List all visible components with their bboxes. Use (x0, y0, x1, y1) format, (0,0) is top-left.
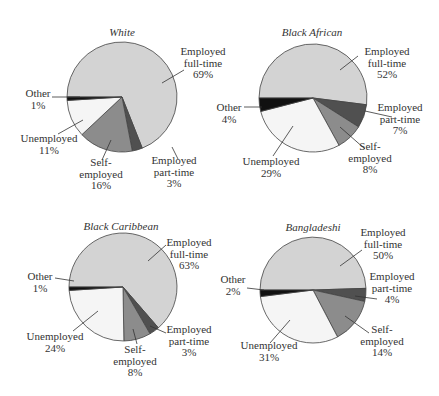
pie-panel-bangladeshi: Bangladeshi Employed full-time 50% Emplo… (220, 198, 439, 396)
label-unemployed: Unemployed 29% (243, 156, 300, 179)
pie-chart (0, 198, 219, 396)
label-employed-part-time: Employed part-time 3% (166, 324, 211, 359)
label-other: Other 1% (27, 271, 52, 294)
label-self-employed: Self- employed 16% (79, 157, 122, 192)
label-employed-part-time: Employed part-time 4% (369, 271, 414, 306)
label-self-employed: Self- employed 14% (360, 324, 403, 359)
pie-panel-black-african: Black African Employed full-time 52% Emp… (220, 0, 439, 198)
label-other: Other 1% (25, 88, 50, 111)
label-unemployed: Unemployed 24% (27, 331, 84, 354)
pie-slice-employed-full-time (260, 237, 366, 290)
pie-slice-employed-full-time (259, 44, 367, 105)
pie-chart-figure: White Employed full-time 69% Employed pa… (0, 0, 439, 396)
label-self-employed: Self- employed 8% (113, 344, 156, 379)
label-employed-full-time: Employed full-time 52% (364, 46, 409, 81)
label-other: Other 4% (216, 102, 241, 125)
label-employed-full-time: Employed full-time 69% (180, 46, 225, 81)
label-employed-full-time: Employed full-time 50% (360, 227, 405, 262)
label-unemployed: Unemployed 11% (21, 133, 78, 156)
label-employed-part-time: Employed part-time 3% (151, 155, 196, 190)
label-unemployed: Unemployed 31% (241, 340, 298, 363)
pie-panel-black-caribbean: Black Caribbean Employed full-time 63% E… (0, 198, 219, 396)
label-employed-part-time: Employed part-time 7% (377, 102, 422, 137)
label-employed-full-time: Employed full-time 63% (166, 237, 211, 272)
label-self-employed: Self- employed 8% (348, 141, 391, 176)
label-other: Other 2% (220, 274, 245, 297)
pie-panel-white: White Employed full-time 69% Employed pa… (0, 0, 219, 198)
